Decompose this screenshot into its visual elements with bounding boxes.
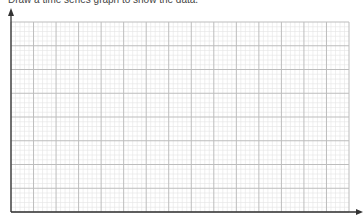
x-axis-arrow-icon [356, 209, 363, 215]
y-axis-arrow-icon [8, 8, 14, 16]
blank-graph-grid [0, 0, 364, 216]
